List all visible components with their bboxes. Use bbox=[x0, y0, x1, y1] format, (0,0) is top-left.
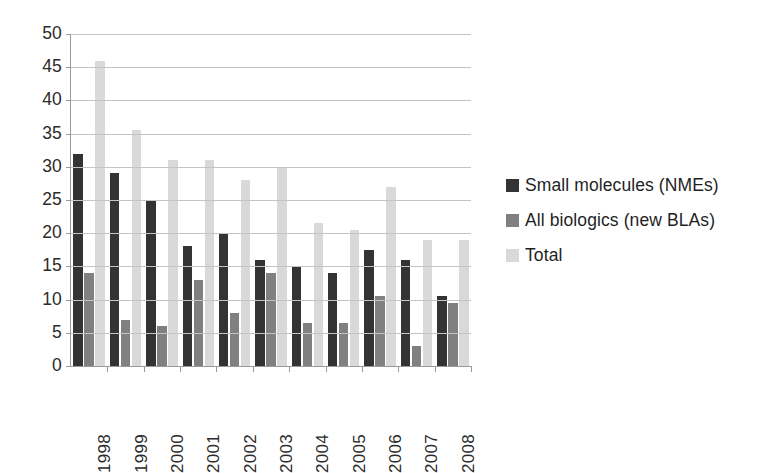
legend-item-label: Total bbox=[525, 247, 562, 265]
legend-swatch-icon bbox=[506, 179, 519, 192]
x-axis-tick-label: 1998 bbox=[96, 434, 113, 473]
x-axis-tick bbox=[471, 366, 472, 372]
gridline bbox=[71, 100, 471, 101]
bar bbox=[375, 296, 385, 366]
bar bbox=[110, 173, 120, 366]
gridline bbox=[71, 67, 471, 68]
gridline bbox=[71, 134, 471, 135]
bar bbox=[95, 61, 105, 366]
bar bbox=[266, 273, 276, 366]
bar bbox=[168, 160, 178, 366]
y-axis-tick-label: 35 bbox=[42, 125, 62, 143]
bar bbox=[205, 160, 215, 366]
x-axis-tick-label: 1999 bbox=[133, 434, 150, 473]
gridline bbox=[71, 167, 471, 168]
y-axis-tick-label: 20 bbox=[42, 224, 62, 242]
y-axis-tick bbox=[66, 300, 71, 301]
legend-item[interactable]: Small molecules (NMEs) bbox=[506, 168, 756, 203]
bar bbox=[241, 180, 251, 366]
y-axis-tick bbox=[66, 134, 71, 135]
x-axis-tick-label: 2002 bbox=[242, 434, 259, 473]
legend-item-label: All biologics (new BLAs) bbox=[525, 212, 715, 230]
y-axis-tick-label: 50 bbox=[42, 25, 62, 43]
bar bbox=[146, 200, 156, 366]
legend-swatch-icon bbox=[506, 214, 519, 227]
bar bbox=[194, 280, 204, 366]
x-axis-tick-label: 2000 bbox=[169, 434, 186, 473]
x-axis-tick-label: 2005 bbox=[351, 434, 368, 473]
y-axis-tick bbox=[66, 333, 71, 334]
x-axis-tick-label: 2004 bbox=[314, 434, 331, 473]
y-axis-tick-label: 5 bbox=[52, 324, 62, 342]
bar bbox=[73, 154, 83, 366]
y-axis-tick bbox=[66, 200, 71, 201]
bar bbox=[412, 346, 422, 366]
y-axis-tick-label: 0 bbox=[52, 357, 62, 375]
bar bbox=[121, 320, 131, 366]
gridline bbox=[71, 266, 471, 267]
x-axis-tick-label: 2007 bbox=[423, 434, 440, 473]
y-axis-tick bbox=[66, 266, 71, 267]
y-axis-tick bbox=[66, 167, 71, 168]
gridline bbox=[71, 233, 471, 234]
bar bbox=[230, 313, 240, 366]
y-axis-tick-label: 25 bbox=[42, 191, 62, 209]
y-axis-tick-labels: 05101520253035404550 bbox=[26, 28, 68, 366]
bar bbox=[132, 130, 142, 366]
y-axis-tick-label: 40 bbox=[42, 92, 62, 110]
bar bbox=[255, 260, 265, 366]
bar bbox=[303, 323, 313, 366]
bar bbox=[339, 323, 349, 366]
x-axis-tick-label: 2003 bbox=[278, 434, 295, 473]
y-axis-tick-label: 10 bbox=[42, 291, 62, 309]
chart-legend: Small molecules (NMEs)All biologics (new… bbox=[506, 168, 756, 273]
bar bbox=[401, 260, 411, 366]
bar bbox=[183, 246, 193, 366]
x-axis-tick-label: 2006 bbox=[387, 434, 404, 473]
bar bbox=[423, 240, 433, 366]
gridline bbox=[71, 34, 471, 35]
gridline bbox=[71, 300, 471, 301]
bar bbox=[84, 273, 94, 366]
bar bbox=[437, 296, 447, 366]
y-axis-tick-label: 30 bbox=[42, 158, 62, 176]
x-axis-tick-label: 2008 bbox=[460, 434, 477, 473]
y-axis-tick bbox=[66, 67, 71, 68]
y-axis-tick-label: 45 bbox=[42, 58, 62, 76]
gridline bbox=[71, 200, 471, 201]
y-axis-tick bbox=[66, 34, 71, 35]
legend-item[interactable]: All biologics (new BLAs) bbox=[506, 203, 756, 238]
y-axis-tick-label: 15 bbox=[42, 258, 62, 276]
plot-area bbox=[70, 34, 471, 367]
bar bbox=[386, 187, 396, 366]
gridline bbox=[71, 333, 471, 334]
y-axis-tick bbox=[66, 100, 71, 101]
legend-item[interactable]: Total bbox=[506, 238, 756, 273]
x-axis-tick-label: 2001 bbox=[205, 434, 222, 473]
y-axis-tick bbox=[66, 233, 71, 234]
bar bbox=[328, 273, 338, 366]
x-axis-tick-labels: 1998199920002001200220032004200520062007… bbox=[70, 372, 470, 442]
legend-item-label: Small molecules (NMEs) bbox=[525, 177, 719, 195]
bar bbox=[292, 266, 302, 366]
y-axis-tick bbox=[66, 366, 71, 367]
bar bbox=[459, 240, 469, 366]
bar bbox=[350, 230, 360, 366]
legend-swatch-icon bbox=[506, 249, 519, 262]
bar bbox=[314, 223, 324, 366]
bar bbox=[448, 303, 458, 366]
